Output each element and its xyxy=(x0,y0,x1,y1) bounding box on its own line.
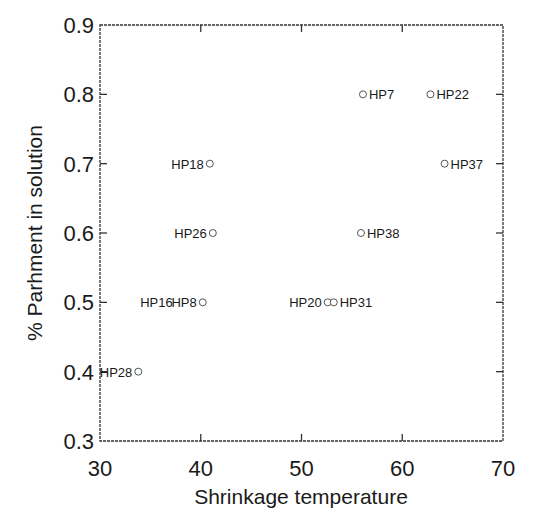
y-axis-title: % Parhment in solution xyxy=(23,125,46,341)
data-points: HP7HP22HP37HP18HP26HP38HP8HP16HP20HP31HP… xyxy=(100,87,483,379)
x-axis-title: Shrinkage temperature xyxy=(194,485,408,508)
point-hp7 xyxy=(359,91,366,98)
x-tick-labels: 3040506070 xyxy=(88,456,515,481)
y-tick-label: 0.6 xyxy=(63,221,94,246)
point-hp37 xyxy=(441,160,448,167)
point-hp26 xyxy=(209,230,216,237)
x-tick-label: 60 xyxy=(390,456,414,481)
x-tick-label: 40 xyxy=(189,456,213,481)
y-tick-label: 0.3 xyxy=(63,429,94,454)
y-tick-labels: 0.30.40.50.60.70.80.9 xyxy=(63,13,94,454)
point-label-hp31: HP31 xyxy=(340,295,373,310)
y-tick-label: 0.8 xyxy=(63,82,94,107)
point-label-hp16: HP16 xyxy=(140,295,173,310)
x-tick-label: 50 xyxy=(289,456,313,481)
point-label-hp7: HP7 xyxy=(369,87,394,102)
y-tick-label: 0.4 xyxy=(63,360,94,385)
scatter-chart: 3040506070 0.30.40.50.60.70.80.9 HP7HP22… xyxy=(0,0,533,527)
point-hp8 xyxy=(199,299,206,306)
point-hp38 xyxy=(357,230,364,237)
point-label-hp20: HP20 xyxy=(289,295,322,310)
y-tick-label: 0.5 xyxy=(63,290,94,315)
x-tick-label: 70 xyxy=(491,456,515,481)
point-hp18 xyxy=(206,160,213,167)
x-tick-label: 30 xyxy=(88,456,112,481)
y-tick-label: 0.7 xyxy=(63,152,94,177)
point-label-hp22: HP22 xyxy=(436,87,469,102)
point-label-hp18: HP18 xyxy=(171,157,204,172)
point-label-hp37: HP37 xyxy=(451,157,484,172)
point-label-hp28: HP28 xyxy=(100,365,133,380)
y-tick-label: 0.9 xyxy=(63,13,94,38)
point-label-hp26: HP26 xyxy=(174,226,207,241)
point-hp28 xyxy=(135,368,142,375)
point-label-hp38: HP38 xyxy=(367,226,400,241)
point-hp31 xyxy=(330,299,337,306)
point-label-hp8: HP8 xyxy=(171,295,196,310)
point-hp22 xyxy=(427,91,434,98)
